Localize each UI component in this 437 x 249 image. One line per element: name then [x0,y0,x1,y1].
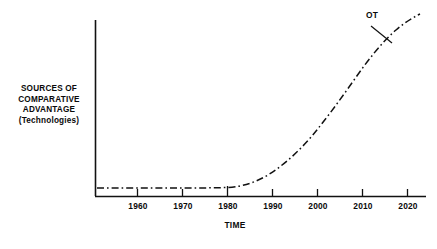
x-tick-label-2000: 2000 [298,201,338,211]
y-axis-label-line-1: SOURCES OF [8,84,90,95]
series-line-ot [97,14,420,188]
y-axis-label-line-3: ADVANTAGE [8,105,90,116]
x-tick-label-2020: 2020 [388,201,428,211]
x-axis-title: TIME [215,220,255,230]
y-axis-label-line-4: (Technologies) [8,116,90,127]
x-axis-ticks [138,186,408,196]
x-tick-label-1970: 1970 [163,201,203,211]
x-tick-label-1980: 1980 [208,201,248,211]
y-axis-label: SOURCES OF COMPARATIVE ADVANTAGE (Techno… [8,84,90,126]
y-axis-label-line-2: COMPARATIVE [8,95,90,106]
x-tick-label-2010: 2010 [343,201,383,211]
ot-leader-line [371,26,392,43]
series-label-ot: OT [358,10,386,20]
x-tick-label-1990: 1990 [253,201,293,211]
chart-figure: SOURCES OF COMPARATIVE ADVANTAGE (Techno… [0,0,437,249]
x-tick-label-1960: 1960 [118,201,158,211]
